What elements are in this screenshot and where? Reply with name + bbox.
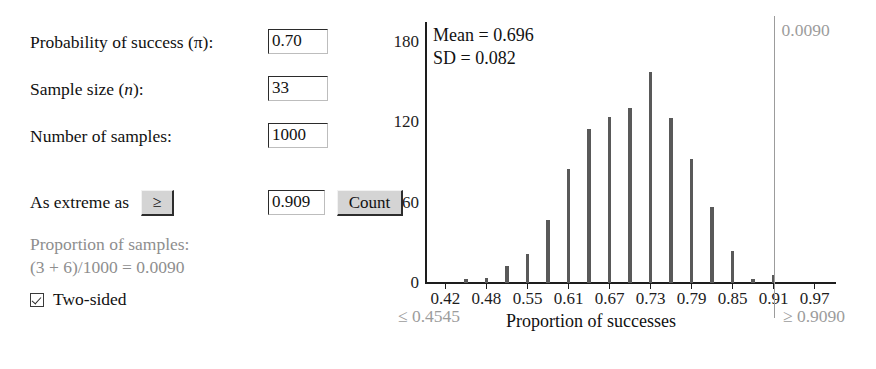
- sd-label: SD = 0.082: [433, 47, 534, 70]
- proportion-label: Proportion of samples:: [30, 233, 189, 256]
- x-tick-label: 0.55: [513, 289, 543, 309]
- sample-size-label: Sample size (n):: [30, 81, 144, 99]
- sampling-distribution-chart: 180120600 0.420.480.550.610.670.730.790.…: [385, 0, 876, 369]
- right-tail-annotation: ≥ 0.9090: [783, 306, 845, 327]
- probability-of-success-label: Probability of success (π):: [30, 34, 213, 52]
- histogram-bar: [608, 117, 611, 283]
- y-tick-label: 60: [383, 194, 419, 211]
- cutoff-proportion-label: 0.0090: [782, 20, 830, 41]
- histogram-bar: [690, 159, 693, 283]
- x-axis-title: Proportion of successes: [425, 311, 757, 332]
- two-sided-checkbox-row[interactable]: Two-sided: [30, 289, 127, 310]
- number-of-samples-input[interactable]: 1000: [268, 123, 328, 148]
- extreme-value-input[interactable]: 0.909: [268, 190, 325, 215]
- two-sided-label: Two-sided: [53, 289, 127, 310]
- histogram-bar: [669, 118, 672, 283]
- x-tick-label: 0.67: [595, 289, 625, 309]
- cutoff-line: [774, 16, 775, 318]
- x-tick-label: 0.79: [677, 289, 707, 309]
- x-tick-label: 0.73: [636, 289, 666, 309]
- histogram-bar: [587, 129, 590, 283]
- histogram-bar: [710, 207, 713, 283]
- histogram-bar: [546, 220, 549, 283]
- proportion-of-samples-readout: Proportion of samples: (3 + 6)/1000 = 0.…: [30, 233, 189, 279]
- summary-statistics: Mean = 0.696 SD = 0.082: [433, 24, 534, 70]
- y-tick-label: 0: [383, 274, 419, 291]
- histogram-bar: [505, 266, 508, 283]
- comparison-operator-button[interactable]: ≥: [141, 190, 174, 216]
- x-tick-label: 0.85: [718, 289, 748, 309]
- number-of-samples-label: Number of samples:: [30, 128, 172, 146]
- x-tick-label: 0.48: [472, 289, 502, 309]
- sample-size-input[interactable]: 33: [268, 76, 328, 101]
- mean-label: Mean = 0.696: [433, 24, 534, 47]
- histogram-bar: [628, 108, 631, 283]
- applet-window: Probability of success (π): 0.70 Sample …: [0, 0, 876, 369]
- x-tick-label: 0.61: [554, 289, 584, 309]
- number-of-samples-row: Number of samples:: [30, 124, 172, 150]
- proportion-value: (3 + 6)/1000 = 0.0090: [30, 256, 189, 279]
- y-tick-label: 180: [383, 33, 419, 50]
- control-panel: Probability of success (π): 0.70 Sample …: [0, 0, 395, 369]
- sample-size-row: Sample size (n):: [30, 77, 144, 103]
- histogram-bar: [731, 251, 734, 283]
- histogram-bar: [567, 169, 570, 283]
- histogram-bar: [464, 279, 467, 283]
- as-extreme-as-label: As extreme as: [30, 194, 129, 212]
- as-extreme-as-row: As extreme as ≥: [30, 189, 174, 216]
- histogram-bar: [649, 72, 652, 283]
- probability-of-success-input[interactable]: 0.70: [268, 29, 328, 54]
- probability-of-success-row: Probability of success (π):: [30, 30, 213, 56]
- histogram-bar: [526, 254, 529, 283]
- y-tick-label: 120: [383, 113, 419, 130]
- checkmark-icon[interactable]: [30, 293, 44, 307]
- histogram-bar: [751, 279, 754, 283]
